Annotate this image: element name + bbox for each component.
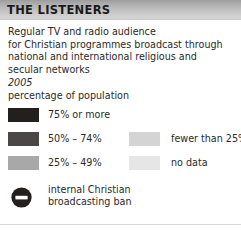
legend-rows: 75% or more 50% – 74% fewer than 25% 25%… <box>0 106 241 178</box>
year-label: 2005 <box>8 76 236 89</box>
swatch-fewer-than-25 <box>129 132 160 146</box>
page-title: THE LISTENERS <box>7 3 110 17</box>
swatch-no-data <box>129 156 160 170</box>
legend-row: 75% or more <box>0 106 241 130</box>
legend-label-fewer-than-25: fewer than 25% <box>171 130 241 147</box>
description-block: Regular TV and radio audience for Christ… <box>8 26 236 102</box>
legend-label-no-data: no data <box>171 154 208 171</box>
legend-row: 25% – 49% no data <box>0 154 241 178</box>
legend-label-50-74: 50% – 74% <box>48 130 102 147</box>
ban-line-2: broadcasting ban <box>48 196 198 208</box>
description-line-4: secular networks <box>8 64 236 77</box>
swatch-75-or-more <box>8 108 39 122</box>
legend-label-75-or-more: 75% or more <box>48 106 110 123</box>
unit-label: percentage of population <box>8 89 236 102</box>
no-broadcasting-ban-icon <box>11 187 32 208</box>
description-line-3: national and international religious and <box>8 51 236 64</box>
swatch-50-74 <box>8 132 39 146</box>
swatch-25-49 <box>8 156 39 170</box>
legend-header-bar: THE LISTENERS <box>0 0 241 21</box>
ban-symbol-text: internal Christian broadcasting ban <box>48 184 198 209</box>
description-line-1: Regular TV and radio audience <box>8 26 236 39</box>
ban-line-1: internal Christian <box>48 184 198 196</box>
ban-symbol-row: internal Christian broadcasting ban <box>0 184 241 218</box>
description-line-2: for Christian programmes broadcast throu… <box>8 39 236 52</box>
map-legend-panel: THE LISTENERS Regular TV and radio audie… <box>0 0 241 231</box>
legend-row: 50% – 74% fewer than 25% <box>0 130 241 154</box>
legend-label-25-49: 25% – 49% <box>48 154 102 171</box>
bottom-divider <box>0 224 241 225</box>
